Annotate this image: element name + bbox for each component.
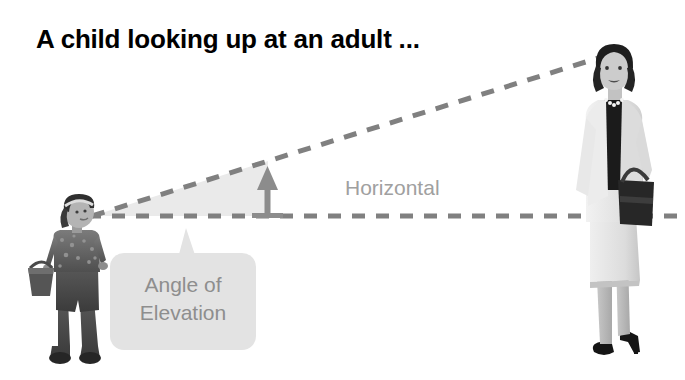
- callout-label: Angle of Elevation: [112, 271, 254, 327]
- callout-line-2: Elevation: [112, 299, 254, 327]
- horizontal-label: Horizontal: [345, 176, 440, 200]
- child-photo: [28, 194, 108, 364]
- geometry-diagram: [0, 0, 685, 380]
- callout-line-1: Angle of: [112, 271, 254, 299]
- adult-photo: [576, 44, 654, 355]
- slide-canvas: A child looking up at an adult ...: [0, 0, 685, 380]
